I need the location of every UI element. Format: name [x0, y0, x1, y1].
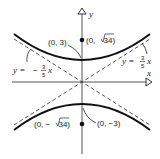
vertex-lower-leader	[83, 108, 96, 123]
svg-text:5: 5	[42, 72, 46, 78]
svg-text:(0, 34): (0, 34)	[86, 36, 115, 45]
svg-text:x: x	[47, 65, 52, 75]
svg-text:3: 3	[42, 64, 46, 70]
vertex-lower-label: (0, −3)	[97, 119, 121, 128]
asymptote-left-label: y = − 3 5 x	[12, 64, 52, 78]
svg-text:3: 3	[141, 55, 145, 61]
focus-upper-label: (0, 34)	[86, 34, 115, 45]
vertex-upper-leader	[68, 45, 81, 58]
y-axis-arrow-icon	[78, 8, 86, 14]
axes: y x	[12, 8, 152, 154]
svg-text:y =: y =	[12, 65, 25, 75]
asymptote-right-label: y = 3 5 x	[121, 55, 151, 69]
svg-text:−: −	[33, 66, 38, 75]
focus-lower-dot	[80, 122, 85, 127]
vertex-upper-label: (0, 3)	[48, 38, 67, 47]
svg-text:y =: y =	[121, 56, 134, 66]
y-axis-label: y	[88, 9, 93, 19]
asymptote-right-leader	[142, 43, 147, 54]
focus-upper-dot	[80, 38, 85, 43]
svg-text:(0, − 34): (0, − 34)	[34, 120, 70, 129]
asymptote-left-leader	[27, 49, 31, 62]
focus-lower-label: (0, − 34)	[34, 118, 70, 129]
svg-text:x: x	[146, 56, 151, 66]
svg-text:5: 5	[141, 63, 145, 69]
x-axis-arrow-icon	[146, 78, 152, 86]
x-axis-label: x	[146, 68, 151, 78]
hyperbola-diagram: y x (0, 3) (0, −3) (0, 34) (0, − 34) y =…	[0, 0, 160, 159]
